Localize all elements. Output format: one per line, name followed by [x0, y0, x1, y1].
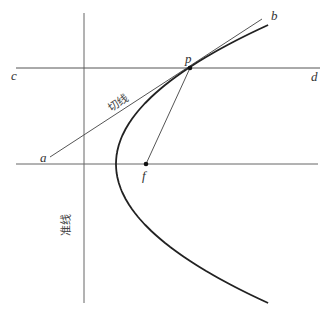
label-d: d: [311, 69, 318, 84]
tangent-line: [50, 19, 262, 157]
point-p: [188, 66, 193, 71]
label-p: p: [184, 51, 192, 66]
label-f: f: [142, 168, 148, 183]
label-a: a: [40, 150, 47, 165]
label-c: c: [11, 68, 17, 83]
tangent-label: 切线: [105, 91, 131, 115]
label-b: b: [271, 8, 278, 23]
directrix-label: 准线: [59, 214, 73, 236]
diagram-canvas: a b c d p f 切线 准线: [0, 0, 329, 329]
parabola-diagram: a b c d p f 切线 准线: [0, 0, 329, 329]
point-f: [144, 162, 149, 167]
